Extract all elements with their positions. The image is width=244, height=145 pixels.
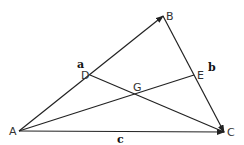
median-DC (90, 75, 224, 132)
triangle-diagram: A B C D E G a b c (0, 0, 244, 145)
vector-a-AB (19, 16, 163, 131)
point-label-c-vertex: C (227, 126, 235, 139)
point-label-e: E (197, 69, 204, 82)
point-label-b-vertex: B (166, 10, 174, 23)
median-AE (19, 75, 194, 131)
point-label-a-vertex: A (9, 125, 17, 138)
vector-c-AC (19, 131, 224, 132)
vector-label-c: c (117, 133, 124, 145)
point-label-g: G (133, 81, 142, 94)
vector-label-b: b (208, 61, 216, 74)
vector-label-a: a (77, 58, 84, 71)
vector-b-BC (163, 16, 224, 132)
